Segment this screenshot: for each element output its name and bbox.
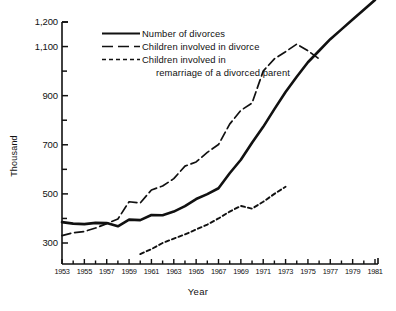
y-axis-title: Thousand (9, 116, 19, 196)
legend-item-number-of-divorces: Number of divorces (101, 27, 331, 40)
chart-container: Thousand Year 1,2001,100900700500300 195… (0, 0, 396, 311)
x-tick-label: 1981 (362, 267, 388, 276)
y-axis-ticks (62, 22, 68, 243)
legend-item-children-involved-in-remarriage-cont: remarriage of a divorced parent (101, 66, 331, 79)
legend-item-children-involved-in-remarriage: Children involved in (101, 53, 331, 66)
legend-item-children-involved-in-divorce: Children involved in divorce (101, 40, 331, 53)
legend-swatch-solid-icon (101, 27, 141, 40)
y-tick-label: 1,100 (14, 41, 58, 52)
legend-label-children-involved-in-remarriage-line2: remarriage of a divorced parent (156, 66, 290, 79)
legend-swatch-short-dash-icon (101, 53, 141, 66)
x-axis-title: Year (0, 286, 396, 297)
y-tick-label: 500 (14, 188, 58, 199)
chart-legend: Number of divorces Children involved in … (101, 27, 331, 79)
legend-label-children-involved-in-remarriage-line1: Children involved in (142, 53, 226, 66)
y-tick-label: 1,200 (14, 16, 58, 27)
legend-label-children-involved-in-divorce: Children involved in divorce (142, 40, 259, 53)
y-tick-label: 700 (14, 139, 58, 150)
legend-swatch-long-dash-icon (101, 40, 141, 53)
y-tick-label: 900 (14, 90, 58, 101)
y-tick-label: 300 (14, 237, 58, 248)
legend-label-number-of-divorces: Number of divorces (142, 27, 225, 40)
series-line-2 (140, 187, 285, 254)
